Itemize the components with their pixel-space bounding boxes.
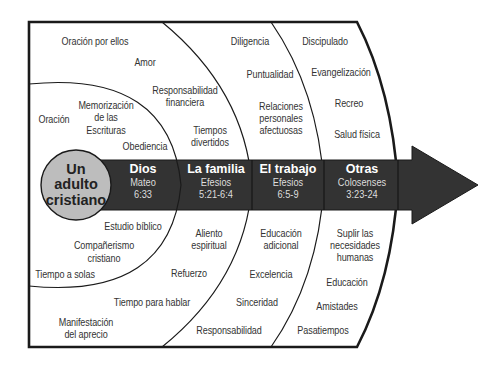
band-otras: Otras Colosenses 3:23-24 <box>335 162 390 200</box>
zone-item: Salud física <box>334 128 380 141</box>
band-ref: Efesios <box>263 176 313 188</box>
zone-item: Educación <box>326 276 367 289</box>
band-ref: Colosenses <box>338 176 386 188</box>
priorities-diagram: Un adulto cristiano Dios Mateo 6:33 La f… <box>0 0 503 368</box>
zone-item: Memorización <box>78 99 133 112</box>
zone-item: adicional <box>264 239 299 252</box>
hub-label: Un adulto cristiano <box>41 150 111 220</box>
zone-item: Suplir las <box>337 227 373 240</box>
zone-item: de las <box>94 111 118 124</box>
zone-item: Aliento <box>195 227 222 240</box>
zone-item: del aprecio <box>64 328 107 341</box>
band-dios: Dios Mateo 6:33 <box>128 162 157 200</box>
zone-item: Sinceridad <box>236 296 278 309</box>
zone-item: Amistades <box>316 300 357 313</box>
zone-item: Oración <box>38 113 69 126</box>
band-title: La familia <box>187 162 245 176</box>
zone-item: Oración por ellos <box>62 35 129 48</box>
band-ref: Mateo <box>130 176 156 188</box>
zone-item: Refuerzo <box>171 267 207 280</box>
band-trabajo: El trabajo Efesios 6:5-9 <box>260 162 317 200</box>
zone-item: divertidos <box>191 136 229 149</box>
zone-item: Pasatiempos <box>297 324 348 337</box>
band-title: El trabajo <box>260 162 317 176</box>
zone-item: Evangelización <box>311 66 371 79</box>
hub-line: cristiano <box>46 193 106 209</box>
band-ref: Efesios <box>191 176 242 188</box>
zone-item: Educación <box>260 227 301 240</box>
zone-item: Compañerismo <box>74 239 134 252</box>
zone-item: Diligencia <box>231 35 269 48</box>
zone-item: Responsabilidad <box>152 84 217 97</box>
zone-item: Tiempos <box>193 124 227 137</box>
zone-item: humanas <box>337 251 374 264</box>
zone-item: Estudio bíblico <box>104 220 161 233</box>
zone-item: personales <box>259 112 302 125</box>
zone-item: financiera <box>166 96 204 109</box>
zone-item: Recreo <box>335 97 364 110</box>
band-ref: 5:21-6:4 <box>191 188 242 200</box>
zone-item: necesidades <box>330 239 380 252</box>
band-familia: La familia Efesios 5:21-6:4 <box>187 162 245 200</box>
band-title: Otras <box>335 162 390 176</box>
hub-line: adulto <box>46 177 106 193</box>
hub-line: Un <box>46 162 106 178</box>
zone-item: Excelencia <box>250 268 293 281</box>
band-ref: 6:33 <box>130 188 156 200</box>
zone-item: Puntualidad <box>247 68 294 81</box>
zone-item: Amor <box>134 56 155 69</box>
zone-item: Relaciones <box>259 100 303 113</box>
zone-item: Tiempo para hablar <box>114 296 190 309</box>
zone-item: cristiano <box>88 252 121 265</box>
zone-item: Responsabilidad <box>196 324 261 337</box>
zone-item: Obediencia <box>123 140 168 153</box>
band-ref: 6:5-9 <box>263 188 313 200</box>
band-title: Dios <box>128 162 157 176</box>
zone-item: afectuosas <box>260 124 303 137</box>
zone-item: Discipulado <box>302 35 348 48</box>
band-ref: 3:23-24 <box>338 188 386 200</box>
zone-item: Manifestación <box>59 316 114 329</box>
zone-item: espiritual <box>191 239 226 252</box>
zone-item: Escrituras <box>86 124 125 137</box>
zone-item: Tiempo a solas <box>35 268 95 281</box>
